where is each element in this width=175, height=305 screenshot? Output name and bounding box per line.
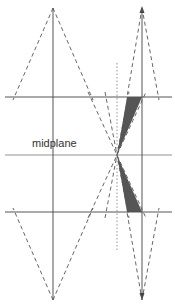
right-dashed-bottom-right xyxy=(142,208,159,300)
right-dashed-top-right xyxy=(142,8,159,100)
lower-filled-wedge xyxy=(117,155,142,212)
left-dashed-top-left xyxy=(13,8,53,100)
optics-diagram xyxy=(0,0,175,305)
left-dashed-bottom-left xyxy=(13,208,53,300)
left-dashed-top-right xyxy=(53,8,93,100)
midplane-label: midplane xyxy=(32,137,77,149)
right-dashed-top-left xyxy=(127,8,142,97)
left-dashed-bottom-right xyxy=(53,208,93,300)
right-dashed-bottom-left xyxy=(127,212,142,300)
